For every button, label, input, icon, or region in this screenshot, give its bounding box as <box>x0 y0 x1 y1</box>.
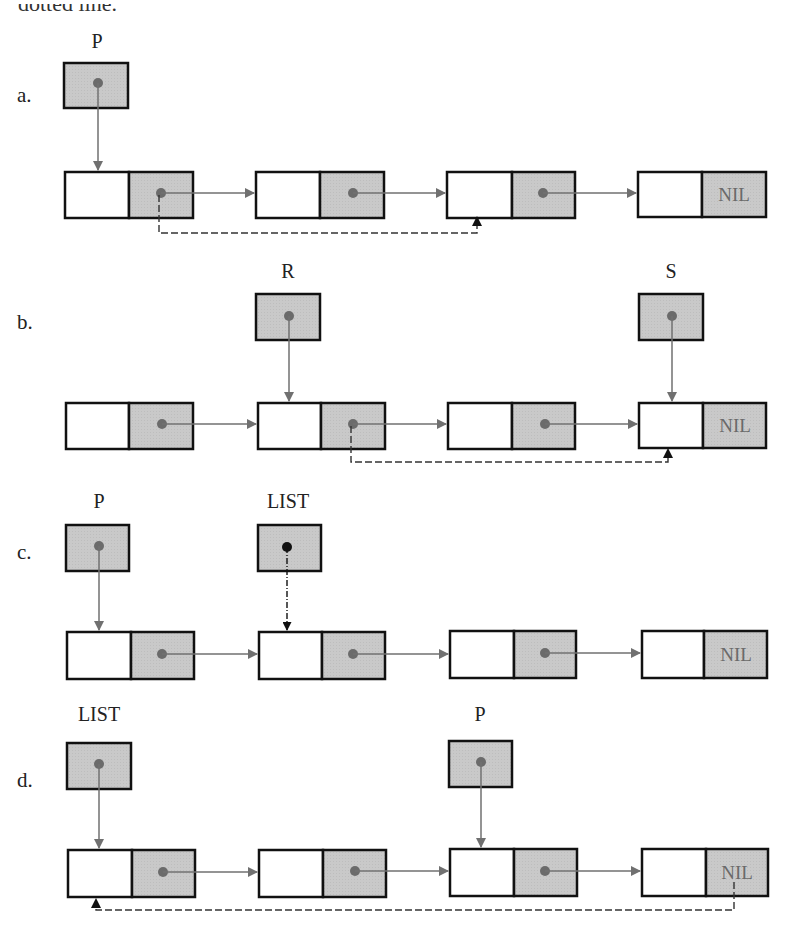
panel-c: NIL <box>66 525 767 679</box>
list-node-3 <box>450 849 640 896</box>
list-node-1 <box>66 403 256 449</box>
pointer-box-LIST <box>258 525 321 630</box>
arrowhead-up-icon <box>91 898 101 908</box>
linked-list-diagram: NIL <box>0 0 788 937</box>
list-node-1 <box>67 632 257 679</box>
list-node-3 <box>448 403 637 449</box>
nil-label: NIL <box>719 415 751 436</box>
nil-label: NIL <box>721 862 753 883</box>
pointer-box-P <box>64 63 128 170</box>
list-node-4: NIL <box>639 403 766 448</box>
list-node-2 <box>258 403 446 449</box>
list-node-1 <box>68 850 257 897</box>
list-node-3 <box>447 172 636 218</box>
arrowhead-up-icon <box>663 448 673 458</box>
list-node-3 <box>450 631 640 678</box>
list-node-2 <box>259 850 448 897</box>
panel-d: NIL <box>67 741 768 910</box>
list-node-2 <box>259 632 448 679</box>
list-node-4: NIL <box>642 849 768 896</box>
list-node-4: NIL <box>642 631 767 678</box>
pointer-box-R <box>256 294 320 401</box>
pointer-box-LIST <box>67 743 131 848</box>
list-node-4: NIL <box>638 172 766 217</box>
nil-label: NIL <box>720 644 752 665</box>
panel-a: NIL <box>64 63 766 233</box>
pointer-box-P <box>449 741 512 847</box>
pointer-box-S <box>639 294 703 401</box>
list-node-2 <box>256 172 445 218</box>
pointer-box-P <box>66 525 129 630</box>
panel-b: NIL <box>66 294 766 462</box>
nil-label: NIL <box>718 184 750 205</box>
